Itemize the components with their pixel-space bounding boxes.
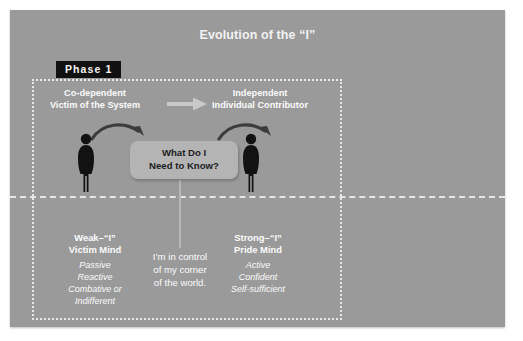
question-callout-line1: What Do I	[134, 147, 234, 160]
column-header-left-line2: Victim of the System	[30, 99, 160, 111]
slide-canvas: Evolution of the “I” Phase 1 Co-dependen…	[10, 10, 505, 327]
center-statement-line1: I’m in control	[132, 250, 228, 263]
phase-badge: Phase 1	[56, 61, 121, 78]
person-silhouette-icon	[73, 132, 99, 194]
arrow-right-icon	[165, 96, 209, 112]
column-header-left: Co-dependent Victim of the System	[30, 87, 160, 111]
trait-item: Indifferent	[30, 295, 160, 307]
callout-stem-connector	[179, 180, 181, 248]
column-header-right: Independent Individual Contributor	[195, 87, 325, 111]
center-statement-line3: of the world.	[132, 276, 228, 289]
question-callout-line2: Need to Know?	[134, 160, 234, 173]
column-header-right-line2: Individual Contributor	[195, 99, 325, 111]
column-header-right-line1: Independent	[195, 87, 325, 99]
horizontal-dashed-divider	[10, 196, 505, 198]
page-title: Evolution of the “I”	[10, 28, 505, 42]
question-callout: What Do I Need to Know?	[130, 141, 238, 179]
center-statement: I’m in control of my corner of the world…	[132, 250, 228, 289]
center-statement-line2: of my corner	[132, 263, 228, 276]
mind-left-title-line1: Weak–“I”	[30, 232, 160, 244]
column-header-left-line1: Co-dependent	[30, 87, 160, 99]
mind-right-title-line1: Strong–“I”	[193, 232, 323, 244]
person-silhouette-icon	[238, 132, 264, 194]
